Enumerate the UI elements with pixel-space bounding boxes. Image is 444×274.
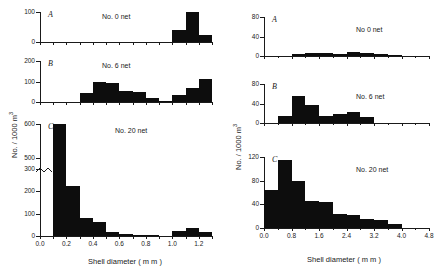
x-tick-label-right-C-4: 3.2 xyxy=(369,233,378,240)
x-tick-left-A-0 xyxy=(40,42,41,45)
x-tick-left-C-2 xyxy=(66,236,67,239)
x-tick-minor-right-B xyxy=(374,123,375,125)
x-tick-left-C-10 xyxy=(172,236,173,239)
x-tick-left-A-2 xyxy=(66,42,67,45)
panel-left-B: 0100200BNo. 6 net xyxy=(40,61,212,102)
x-tick-minor-right-C xyxy=(374,228,375,230)
bar-right-B-3 xyxy=(305,105,319,123)
bar-right-C-7 xyxy=(360,219,374,228)
bar-right-A-3 xyxy=(305,53,319,56)
x-tick-minor-right-B xyxy=(360,123,361,125)
x-tick-left-C-8 xyxy=(146,236,147,239)
x-tick-left-C-12 xyxy=(199,236,200,239)
panel-left-C: 01002003005006000.00.20.40.60.81.01.2CNo… xyxy=(40,124,212,236)
y-tick-label-right-B-2: 80 xyxy=(252,81,259,88)
x-tick-label-right-C-0: 0.0 xyxy=(259,233,268,240)
bar-left-C-6 xyxy=(119,234,132,236)
y-tick-right-A-1 xyxy=(260,37,264,38)
x-tick-label-left-C-4: 0.4 xyxy=(88,241,97,248)
x-tick-minor-right-B xyxy=(333,123,334,125)
bar-right-B-4 xyxy=(319,116,333,123)
y-tick-label-right-A-1: 40 xyxy=(252,33,259,40)
x-tick-left-C-6 xyxy=(119,236,120,239)
x-tick-label-left-C-6: 0.6 xyxy=(115,241,124,248)
y-tick-label-left-C-1: 100 xyxy=(24,210,35,217)
x-tick-minor-right-A xyxy=(360,56,361,58)
y-tick-label-left-C-4: 500 xyxy=(24,154,35,161)
x-tick-minor-right-A xyxy=(347,56,348,58)
x-tick-minor-right-C xyxy=(292,228,293,230)
panel-annotation-right-B: No. 6 net xyxy=(356,93,384,100)
x-tick-left-C-4 xyxy=(93,236,94,239)
bar-left-C-1 xyxy=(53,124,66,236)
bar-right-C-3 xyxy=(305,201,319,228)
y-tick-label-right-C-1: 40 xyxy=(252,201,259,208)
x-tick-minor-right-A xyxy=(264,56,265,58)
x-tick-left-A-12 xyxy=(199,42,200,45)
y-tick-label-right-A-0: 0 xyxy=(255,53,259,60)
y-tick-left-A-1 xyxy=(36,12,40,13)
panel-annotation-right-C: No. 20 net xyxy=(356,166,388,173)
right-x-axis-label: Shell diameter ( m m ) xyxy=(307,256,381,264)
x-tick-label-left-C-12: 1.2 xyxy=(194,241,203,248)
figure-root: No. / 1000 m3 Shell diameter ( m m ) 010… xyxy=(0,0,444,274)
panel-letter-left-B: B xyxy=(48,60,53,68)
y-tick-label-right-A-2: 80 xyxy=(252,14,259,21)
plot-area-right-C: 04080120 xyxy=(264,157,429,228)
y-tick-left-C-1 xyxy=(36,214,40,215)
x-tick-left-A-9 xyxy=(159,42,160,45)
left-y-axis-label: No. / 1000 m3 xyxy=(9,112,18,158)
x-tick-minor-right-A xyxy=(292,56,293,58)
panel-right-B: 04080BNo. 6 net xyxy=(264,84,429,123)
x-tick-minor-right-B xyxy=(319,123,320,125)
x-tick-minor-right-A xyxy=(415,56,416,58)
x-tick-minor-right-C xyxy=(264,228,265,230)
x-tick-left-B-4 xyxy=(93,102,94,105)
y-tick-left-B-2 xyxy=(36,61,40,62)
x-tick-label-left-C-8: 0.8 xyxy=(141,241,150,248)
y-tick-label-left-A-0: 0 xyxy=(31,39,35,46)
x-tick-minor-right-B xyxy=(388,123,389,125)
bar-right-C-4 xyxy=(319,202,333,228)
bar-left-C-11 xyxy=(186,228,199,237)
x-tick-minor-right-C xyxy=(305,228,306,230)
bar-right-B-6 xyxy=(347,112,361,123)
bar-left-A-10 xyxy=(172,30,185,42)
x-tick-minor-right-B xyxy=(415,123,416,125)
bar-left-B-6 xyxy=(119,91,132,102)
x-tick-left-A-1 xyxy=(53,42,54,45)
y-tick-right-C-3 xyxy=(260,157,264,158)
x-tick-left-B-3 xyxy=(80,102,81,105)
x-tick-minor-right-B xyxy=(305,123,306,125)
x-tick-minor-right-A xyxy=(402,56,403,58)
bar-right-C-0 xyxy=(264,190,278,228)
bar-right-A-2 xyxy=(292,54,306,56)
x-tick-left-B-7 xyxy=(133,102,134,105)
x-tick-minor-right-C xyxy=(278,228,279,230)
x-tick-left-C-5 xyxy=(106,236,107,239)
x-tick-minor-right-B xyxy=(347,123,348,125)
y-tick-right-B-2 xyxy=(260,84,264,85)
bar-right-B-7 xyxy=(360,117,374,123)
x-tick-left-C-9 xyxy=(159,236,160,239)
bar-right-A-6 xyxy=(347,52,361,56)
x-tick-label-right-C-2: 1.6 xyxy=(314,233,323,240)
bar-left-C-3 xyxy=(80,218,93,236)
x-tick-left-B-11 xyxy=(186,102,187,105)
panel-letter-left-C: C xyxy=(48,123,53,131)
y-tick-right-A-2 xyxy=(260,17,264,18)
bar-right-C-8 xyxy=(374,220,388,228)
x-tick-label-left-C-0: 0.0 xyxy=(35,241,44,248)
y-tick-label-right-B-1: 40 xyxy=(252,100,259,107)
panel-left-A: 0100ANo. 0 net xyxy=(40,12,212,42)
x-tick-minor-right-C xyxy=(429,228,430,230)
y-tick-label-left-C-2: 200 xyxy=(24,188,35,195)
x-tick-left-C-3 xyxy=(80,236,81,239)
panel-annotation-left-B: No. 6 net xyxy=(102,62,130,69)
bar-left-B-5 xyxy=(106,83,119,102)
x-tick-minor-right-A xyxy=(333,56,334,58)
x-tick-minor-right-B xyxy=(292,123,293,125)
y-axis-line-right-B xyxy=(264,84,265,124)
y-tick-left-B-1 xyxy=(36,82,40,83)
panel-letter-right-C: C xyxy=(272,156,277,164)
